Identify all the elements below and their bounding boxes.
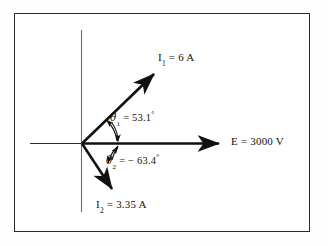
phasor-label-e-symbol: E <box>231 135 238 147</box>
angle-label-theta1-value: 53.1 <box>132 112 151 123</box>
phasor-label-i2-unit: A <box>139 198 147 210</box>
angle-label-theta2-equals: = <box>119 155 125 166</box>
angle-label-theta1-symbol: θ <box>110 111 117 123</box>
phasor-label-i1-subscript: 1 <box>162 59 166 68</box>
angle-label-theta2-symbol: θ <box>106 154 113 166</box>
phasor-diagram-figure: I1 = 6 A E = 3000 V θ1 = 53.1° θ2 = − 63… <box>0 0 328 246</box>
diagram-canvas <box>0 0 328 246</box>
phasor-label-i2-equals: = <box>107 198 113 210</box>
phasor-label-i1-value: 6 <box>178 51 184 63</box>
angle-label-theta2-value: − 63.4 <box>128 155 156 166</box>
angle-label-theta1-equals: = <box>123 112 129 123</box>
phasor-label-i2: I2 = 3.35 A <box>96 199 147 210</box>
phasor-arrow-i1 <box>82 74 154 144</box>
phasor-label-e: E = 3000 V <box>231 136 284 147</box>
angle-label-theta2-degree: ° <box>156 153 159 162</box>
phasor-label-i1-equals: = <box>169 51 175 63</box>
phasor-label-e-equals: = <box>241 135 247 147</box>
phasor-label-i1: I1 = 6 A <box>158 52 194 63</box>
angle-label-theta1: θ1 = 53.1° <box>110 112 155 124</box>
angle-label-theta2-subscript: 2 <box>113 163 117 171</box>
angle-label-theta1-subscript: 1 <box>117 120 121 128</box>
phasor-label-e-unit: V <box>276 135 284 147</box>
phasor-label-i2-subscript: 2 <box>100 206 104 215</box>
phasor-label-i1-unit: A <box>186 51 194 63</box>
angle-label-theta2: θ2 = − 63.4° <box>106 155 160 167</box>
phasor-label-e-value: 3000 <box>250 135 273 147</box>
phasor-label-i2-value: 3.35 <box>116 198 136 210</box>
angle-label-theta1-degree: ° <box>151 110 154 119</box>
